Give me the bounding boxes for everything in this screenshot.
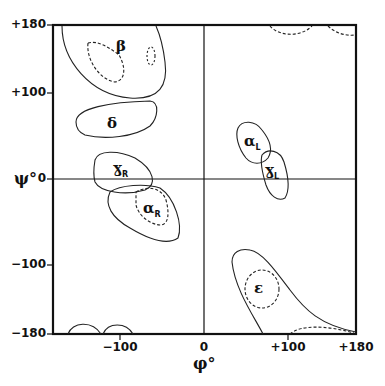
- y-tick-label-minus100: −100: [2, 257, 46, 271]
- gammaL-label: ɣL: [265, 161, 279, 181]
- alphaR-label: αR: [143, 199, 161, 219]
- y-tick-label-180: +180: [2, 17, 46, 31]
- delta-label: δ: [107, 114, 117, 132]
- beta-region-outline: [62, 26, 166, 98]
- bottom-left-arc-2: [103, 325, 133, 334]
- gammaR-label: ɣR: [113, 159, 128, 179]
- y-tick-label-minus180: −180: [2, 326, 46, 340]
- top-right-dashed-arc-2: [328, 26, 355, 35]
- alphaL-label: αL: [244, 132, 261, 152]
- y-axis-title: ψ°: [14, 169, 37, 188]
- epsilon-region-outline: [232, 250, 356, 335]
- epsilon-label: ε: [254, 279, 263, 297]
- ramachandran-plot: [0, 0, 385, 386]
- x-tick-label-100: +100: [263, 340, 313, 354]
- x-tick-label-minus100: −100: [95, 340, 145, 354]
- x-tick-label-180: +180: [331, 340, 381, 354]
- y-tick-label-100: +100: [2, 85, 46, 99]
- beta-minor-dashed: [147, 47, 155, 65]
- top-right-dashed-arc-1: [270, 26, 312, 34]
- beta-label: β: [116, 37, 126, 55]
- bottom-left-arc-1: [68, 324, 101, 334]
- x-tick-label-0: 0: [179, 340, 229, 354]
- x-axis-title: φ°: [193, 354, 215, 373]
